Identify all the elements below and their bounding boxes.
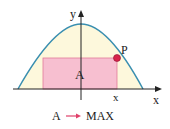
area-label: A (75, 67, 85, 82)
bell-curve-rectangle-diagram: y x x P A A MAX (0, 0, 170, 129)
x-point-label: x (113, 91, 119, 103)
y-axis-label: y (70, 7, 76, 21)
caption-right: MAX (86, 109, 114, 123)
x-axis-arrow-icon (155, 86, 162, 92)
y-axis-arrow-icon (78, 10, 84, 17)
point-label: P (121, 43, 128, 57)
caption-left: A (52, 109, 61, 123)
point-p (114, 55, 121, 62)
caption-arrow-icon (76, 114, 81, 119)
x-axis-label: x (153, 93, 159, 107)
